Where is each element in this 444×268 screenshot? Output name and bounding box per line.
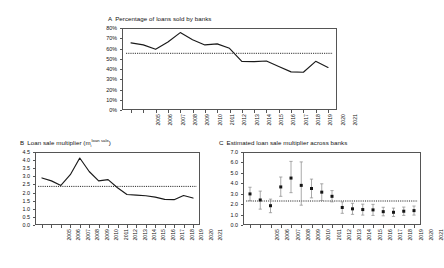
x-tick-mark bbox=[136, 225, 137, 228]
data-point bbox=[392, 211, 395, 214]
data-point bbox=[310, 187, 313, 190]
x-tick-label: 2012 bbox=[346, 229, 352, 251]
x-tick-label: 2016 bbox=[387, 229, 393, 251]
x-tick-mark bbox=[342, 225, 343, 228]
y-tick-label: 50% bbox=[0, 56, 117, 62]
y-tick-label: 40% bbox=[0, 66, 117, 72]
x-tick-mark bbox=[165, 225, 166, 228]
panel-b-plot: 0.00.51.01.52.02.53.03.54.04.5 200520062… bbox=[0, 134, 215, 268]
x-tick-label: 2012 bbox=[241, 114, 247, 136]
x-tick-label: 2018 bbox=[189, 229, 195, 251]
x-tick-mark bbox=[230, 110, 231, 113]
x-tick-label: 2007 bbox=[295, 229, 301, 251]
x-tick-mark bbox=[322, 225, 323, 228]
x-tick-mark bbox=[42, 225, 43, 228]
x-tick-label: 2005 bbox=[274, 229, 280, 251]
data-point bbox=[290, 177, 293, 180]
y-tick-label: 2.5 bbox=[0, 181, 30, 187]
x-tick-label: 2018 bbox=[315, 114, 321, 136]
x-tick-mark bbox=[250, 225, 251, 228]
x-tick-mark bbox=[89, 225, 90, 228]
x-tick-mark bbox=[332, 225, 333, 228]
x-tick-label: 2005 bbox=[155, 114, 161, 136]
x-tick-label: 2012 bbox=[132, 229, 138, 251]
x-tick-label: 2014 bbox=[366, 229, 372, 251]
panel-a: APercentage of loans sold by banks 0%10%… bbox=[0, 0, 431, 134]
y-tick-mark bbox=[33, 225, 36, 226]
x-tick-label: 2016 bbox=[290, 114, 296, 136]
y-tick-label: 1.0 bbox=[0, 206, 30, 212]
x-tick-mark bbox=[328, 110, 329, 113]
data-point bbox=[259, 198, 262, 201]
x-tick-label: 2013 bbox=[356, 229, 362, 251]
x-tick-label: 2009 bbox=[204, 114, 210, 136]
x-tick-label: 2013 bbox=[254, 114, 260, 136]
x-tick-mark bbox=[156, 110, 157, 113]
x-tick-mark bbox=[180, 110, 181, 113]
data-line bbox=[42, 158, 193, 200]
x-tick-mark bbox=[51, 225, 52, 228]
x-tick-mark bbox=[146, 225, 147, 228]
panel-c: CEstimated loan sale multiplier across b… bbox=[215, 134, 431, 268]
y-tick-label: 3.5 bbox=[0, 165, 30, 171]
data-point bbox=[300, 184, 303, 187]
y-tick-label: 70% bbox=[0, 35, 117, 41]
y-tick-label: 4.0 bbox=[215, 180, 238, 186]
x-tick-label: 2015 bbox=[377, 229, 383, 251]
y-tick-label: 5.0 bbox=[215, 170, 238, 176]
panel-a-series bbox=[122, 28, 337, 110]
x-tick-mark bbox=[184, 225, 185, 228]
x-tick-label: 2017 bbox=[179, 229, 185, 251]
x-tick-label: 2017 bbox=[303, 114, 309, 136]
x-tick-mark bbox=[291, 225, 292, 228]
x-tick-label: 2011 bbox=[123, 229, 129, 251]
y-tick-label: 60% bbox=[0, 46, 117, 52]
y-tick-label: 80% bbox=[0, 25, 117, 31]
x-tick-label: 2017 bbox=[397, 229, 403, 251]
x-tick-label: 2020 bbox=[428, 229, 434, 251]
x-tick-mark bbox=[99, 225, 100, 228]
x-tick-label: 2019 bbox=[418, 229, 424, 251]
y-tick-label: 0.5 bbox=[0, 214, 30, 220]
x-tick-mark bbox=[316, 110, 317, 113]
x-tick-label: 2006 bbox=[167, 114, 173, 136]
data-line bbox=[131, 33, 328, 73]
x-tick-label: 2010 bbox=[113, 229, 119, 251]
x-tick-mark bbox=[254, 110, 255, 113]
x-tick-mark bbox=[80, 225, 81, 228]
x-tick-mark bbox=[394, 225, 395, 228]
y-tick-label: 0% bbox=[0, 107, 117, 113]
x-tick-mark bbox=[353, 225, 354, 228]
x-tick-mark bbox=[174, 225, 175, 228]
x-tick-mark bbox=[108, 225, 109, 228]
x-tick-label: 2005 bbox=[66, 229, 72, 251]
x-tick-mark bbox=[127, 225, 128, 228]
data-point bbox=[361, 208, 364, 211]
y-tick-label: 7.0 bbox=[215, 149, 238, 155]
x-tick-mark bbox=[70, 225, 71, 228]
data-point bbox=[279, 185, 282, 188]
x-tick-mark bbox=[143, 110, 144, 113]
data-point bbox=[382, 210, 385, 213]
x-tick-mark bbox=[383, 225, 384, 228]
x-tick-mark bbox=[414, 225, 415, 228]
x-tick-label: 2021 bbox=[438, 229, 444, 251]
y-tick-label: 6.0 bbox=[215, 159, 238, 165]
x-tick-label: 2021 bbox=[352, 114, 358, 136]
x-tick-label: 2009 bbox=[104, 229, 110, 251]
x-tick-label: 2020 bbox=[208, 229, 214, 251]
x-tick-label: 2007 bbox=[180, 114, 186, 136]
x-tick-mark bbox=[205, 110, 206, 113]
x-tick-mark bbox=[260, 225, 261, 228]
x-tick-mark bbox=[266, 110, 267, 113]
y-tick-label: 0.0 bbox=[215, 222, 238, 228]
x-tick-label: 2008 bbox=[94, 229, 100, 251]
x-tick-mark bbox=[373, 225, 374, 228]
x-tick-label: 2009 bbox=[315, 229, 321, 251]
data-point bbox=[320, 191, 323, 194]
panel-c-plot: 0.01.02.03.04.05.06.07.0 200520062007200… bbox=[215, 134, 431, 268]
y-tick-label: 2.0 bbox=[0, 190, 30, 196]
y-tick-mark bbox=[241, 225, 244, 226]
data-point bbox=[402, 210, 405, 213]
panel-c-series bbox=[243, 152, 421, 225]
